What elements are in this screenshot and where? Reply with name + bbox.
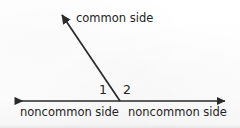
- noncommon-side-right-label: noncommon side: [128, 107, 227, 119]
- common-side-label: common side: [76, 13, 153, 25]
- angle-diagram-figure: common side 1 2 noncommon side noncommon…: [0, 0, 240, 128]
- angle-1-label: 1: [99, 84, 107, 97]
- common-side-ray: [62, 15, 120, 101]
- noncommon-side-left-label: noncommon side: [20, 107, 119, 119]
- angle-2-label: 2: [123, 84, 131, 97]
